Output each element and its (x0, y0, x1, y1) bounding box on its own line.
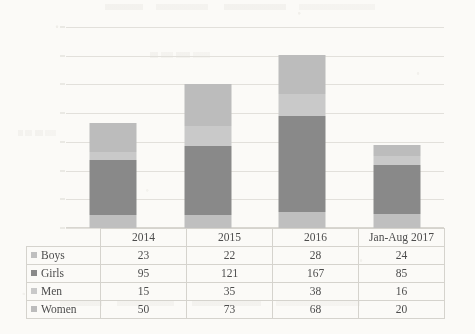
bar-slot-jan-aug-2017 (350, 27, 445, 228)
bar-segment-men[interactable] (90, 152, 137, 161)
plot-area: 050100150200250300350 (66, 27, 444, 228)
bars-group (66, 27, 444, 228)
stacked-bar-2015[interactable] (184, 84, 231, 228)
legend-swatch-icon-women (31, 306, 37, 312)
table-cell-girls-2016: 167 (273, 265, 359, 283)
stacked-column-chart-figure: 050100150200250300350 201420152016Jan-Au… (0, 0, 475, 334)
bar-segment-girls[interactable] (184, 146, 231, 215)
y-tick-mark-150 (60, 141, 65, 142)
stacked-bar-jan-aug-2017[interactable] (373, 145, 420, 228)
table-cell-men-2016: 38 (273, 283, 359, 301)
table-cell-girls-2015: 121 (187, 265, 273, 283)
table-row: Boys23222824 (27, 247, 445, 265)
table-cell-girls-2014: 95 (101, 265, 187, 283)
table-cell-boys-2014: 23 (101, 247, 187, 265)
table-row: Women50736820 (27, 301, 445, 319)
bar-segment-boys[interactable] (184, 215, 231, 228)
bar-slot-2014 (66, 27, 161, 228)
legend-label-men: Men (41, 285, 62, 297)
legend-swatch-icon-girls (31, 270, 37, 276)
table-cell-men-2014: 15 (101, 283, 187, 301)
table-cell-women-2016: 68 (273, 301, 359, 319)
y-tick-mark-350 (60, 27, 65, 28)
table-column-header-2014: 2014 (101, 229, 187, 247)
bar-segment-women[interactable] (373, 145, 420, 156)
legend-item-men[interactable]: Men (27, 283, 101, 301)
table-cell-women-2015: 73 (187, 301, 273, 319)
table-cell-men-jan-aug-2017: 16 (359, 283, 445, 301)
data-table: 201420152016Jan-Aug 2017Boys23222824Girl… (26, 228, 445, 319)
table-row: Girls9512116785 (27, 265, 445, 283)
bar-segment-girls[interactable] (373, 165, 420, 214)
table-column-header-2015: 2015 (187, 229, 273, 247)
y-tick-mark-50 (60, 199, 65, 200)
table-cell-women-2014: 50 (101, 301, 187, 319)
bar-segment-boys[interactable] (373, 214, 420, 228)
bar-segment-boys[interactable] (90, 215, 137, 228)
y-tick-mark-200 (60, 113, 65, 114)
table-cell-boys-2016: 28 (273, 247, 359, 265)
bar-segment-women[interactable] (90, 123, 137, 152)
bar-slot-2015 (161, 27, 256, 228)
table-cell-women-jan-aug-2017: 20 (359, 301, 445, 319)
table-column-header-2016: 2016 (273, 229, 359, 247)
table-cell-girls-jan-aug-2017: 85 (359, 265, 445, 283)
table-cell-men-2015: 35 (187, 283, 273, 301)
bar-segment-girls[interactable] (90, 160, 137, 215)
legend-item-women[interactable]: Women (27, 301, 101, 319)
bar-segment-men[interactable] (279, 94, 326, 116)
stacked-bar-2014[interactable] (90, 123, 137, 228)
y-tick-mark-300 (60, 55, 65, 56)
legend-label-boys: Boys (41, 249, 65, 261)
legend-item-boys[interactable]: Boys (27, 247, 101, 265)
table-header-row: 201420152016Jan-Aug 2017 (27, 229, 445, 247)
legend-swatch-icon-boys (31, 252, 37, 258)
legend-label-women: Women (41, 303, 76, 315)
bar-segment-boys[interactable] (279, 212, 326, 228)
bar-segment-women[interactable] (279, 55, 326, 94)
y-tick-mark-100 (60, 170, 65, 171)
bar-segment-women[interactable] (184, 84, 231, 126)
legend-item-girls[interactable]: Girls (27, 265, 101, 283)
legend-swatch-icon-men (31, 288, 37, 294)
stacked-bar-2016[interactable] (279, 55, 326, 228)
bar-segment-men[interactable] (184, 126, 231, 146)
legend-label-girls: Girls (41, 267, 64, 279)
table-cell-boys-jan-aug-2017: 24 (359, 247, 445, 265)
bar-slot-2016 (255, 27, 350, 228)
bar-segment-men[interactable] (373, 156, 420, 165)
table-corner-cell (27, 229, 101, 247)
table-column-header-jan-aug-2017: Jan-Aug 2017 (359, 229, 445, 247)
y-tick-mark-250 (60, 84, 65, 85)
bar-segment-girls[interactable] (279, 116, 326, 212)
table-row: Men15353816 (27, 283, 445, 301)
table-cell-boys-2015: 22 (187, 247, 273, 265)
